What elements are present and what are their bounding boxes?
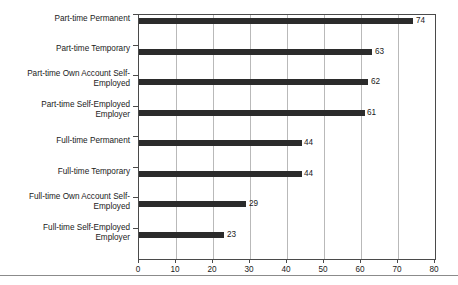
category-label-6: Full-time Own Account Self- Employed [0, 192, 130, 212]
bar-row: 44 [139, 129, 435, 160]
category-label-4: Full-time Permanent [0, 136, 130, 146]
xtick-label-50: 50 [318, 264, 327, 275]
xtick-70 [397, 259, 398, 263]
bar-value-4: 44 [304, 138, 313, 148]
xtick-0 [138, 259, 139, 263]
bar-part-time-temporary[interactable] [139, 49, 372, 55]
xtick-80 [434, 259, 435, 263]
xtick-label-0: 0 [136, 264, 141, 275]
xtick-20 [212, 259, 213, 263]
bar-value-5: 44 [304, 169, 313, 179]
bar-value-3: 61 [367, 108, 376, 118]
bar-chart-figure: Part-time Permanent Part-time Temporary … [0, 0, 458, 285]
xtick-40 [286, 259, 287, 263]
xtick-label-80: 80 [429, 264, 438, 275]
category-label-7: Full-time Self-Employed Employer [0, 223, 130, 243]
bar-row: 63 [139, 38, 435, 69]
bar-value-7: 23 [227, 230, 236, 240]
category-label-2: Part-time Own Account Self- Employed [0, 69, 130, 89]
bar-row: 29 [139, 190, 435, 221]
bar-value-1: 63 [375, 47, 384, 57]
category-label-1: Part-time Temporary [0, 44, 130, 54]
category-label-0: Part-time Permanent [0, 14, 130, 24]
bar-value-0: 74 [416, 16, 425, 26]
xtick-label-60: 60 [355, 264, 364, 275]
bar-row: 61 [139, 99, 435, 130]
category-label-5: Full-time Temporary [0, 167, 130, 177]
bars-layer: 74 63 62 61 44 44 [139, 15, 435, 259]
bar-full-time-temporary[interactable] [139, 171, 302, 177]
bar-value-6: 29 [249, 199, 258, 209]
plot-area: 74 63 62 61 44 44 [138, 14, 436, 260]
bar-part-time-permanent[interactable] [139, 18, 413, 24]
bar-part-time-own-account-self-employed[interactable] [139, 79, 368, 85]
xtick-label-20: 20 [207, 264, 216, 275]
bar-full-time-permanent[interactable] [139, 140, 302, 146]
category-axis-labels: Part-time Permanent Part-time Temporary … [0, 10, 134, 258]
bar-row: 44 [139, 160, 435, 191]
figure-bottom-rule [0, 275, 458, 276]
bar-row: 74 [139, 7, 435, 38]
xtick-label-30: 30 [244, 264, 253, 275]
category-label-3: Part-time Self-Employed Employer [0, 100, 130, 120]
xtick-label-40: 40 [281, 264, 290, 275]
xtick-label-10: 10 [170, 264, 179, 275]
bar-full-time-own-account-self-employed[interactable] [139, 201, 246, 207]
bar-part-time-self-employed-employer[interactable] [139, 110, 365, 116]
xtick-10 [175, 259, 176, 263]
bar-row: 62 [139, 68, 435, 99]
xtick-30 [249, 259, 250, 263]
bar-row: 23 [139, 221, 435, 252]
xtick-50 [323, 259, 324, 263]
bar-full-time-self-employed-employer[interactable] [139, 232, 224, 238]
xtick-60 [360, 259, 361, 263]
bar-value-2: 62 [371, 77, 380, 87]
xtick-label-70: 70 [392, 264, 401, 275]
